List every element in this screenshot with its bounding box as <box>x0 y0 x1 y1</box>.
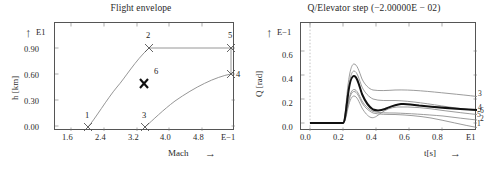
left-point-label-1: 1 <box>85 110 89 120</box>
left-xtick-1: 2.4 <box>95 132 106 142</box>
left-x-exponent: E−1 <box>221 132 235 142</box>
x-axis-arrow-icon: → <box>205 147 216 159</box>
left-chart-title: Flight envelope <box>46 3 236 13</box>
right-xtick-0: 0.0 <box>300 132 311 142</box>
left-ytick-3: 0.90 <box>24 44 39 54</box>
left-ytick-0: 0.00 <box>24 122 39 132</box>
left-envelope-path <box>88 48 231 127</box>
left-xtick-3: 4.0 <box>160 132 171 142</box>
right-y-axis-arrow-icon: ↑ <box>266 26 273 39</box>
left-xtick-2: 3.2 <box>128 132 139 142</box>
left-ytick-1: 0.30 <box>24 96 39 106</box>
right-xtick-1: 0.2 <box>333 132 344 142</box>
right-series-label-3: 3 <box>478 89 482 98</box>
right-series-6-line <box>310 76 477 123</box>
left-ytick-2: 0.60 <box>24 70 39 80</box>
right-xtick-3: 0.6 <box>399 132 410 142</box>
right-series-5-line <box>310 96 477 123</box>
right-series-label-1: 1 <box>477 119 481 128</box>
left-point-label-6: 6 <box>154 66 158 76</box>
right-ytick-0: 0.0 <box>282 122 293 132</box>
panel-q-elevator-step: Q/Elevator step (−2.00000E − 02) ↑ E−1 Q… <box>244 0 488 170</box>
right-x-exponent: E1 <box>466 132 475 142</box>
left-point-label-5: 5 <box>228 30 232 40</box>
right-ytick-1: 0.2 <box>282 98 293 108</box>
right-plot-svg <box>301 23 477 131</box>
left-point-6-marker <box>140 79 148 88</box>
right-xtick-4: 0.8 <box>432 132 443 142</box>
left-xtick-0: 1.6 <box>62 132 73 142</box>
right-x-axis-label: t[s] <box>424 148 436 158</box>
right-y-exponent: E−1 <box>277 27 291 37</box>
left-point-markers <box>84 44 235 131</box>
left-x-axis-label: Mach <box>168 148 189 158</box>
right-x-axis-arrow-icon: → <box>450 147 461 159</box>
right-plot-area <box>300 22 476 130</box>
two-panel-figure: Flight envelope ↑ E1 h [km] 0.00 0.30 0.… <box>0 0 488 170</box>
right-chart-title: Q/Elevator step (−2.00000E − 02) <box>264 3 484 13</box>
right-series-4-line <box>310 71 477 123</box>
left-point-label-3: 3 <box>142 110 146 120</box>
right-y-axis-label: Q [rad] <box>254 71 264 97</box>
left-point-label-2: 2 <box>146 30 150 40</box>
panel-flight-envelope: Flight envelope ↑ E1 h [km] 0.00 0.30 0.… <box>0 0 244 170</box>
left-y-exponent: E1 <box>36 27 45 37</box>
right-ytick-3: 0.6 <box>282 50 293 60</box>
left-point-label-4: 4 <box>236 69 240 79</box>
right-xtick-2: 0.4 <box>366 132 377 142</box>
right-ytick-2: 0.4 <box>282 74 293 84</box>
left-y-axis-label: h [km] <box>10 76 20 100</box>
right-series-thin <box>310 64 477 128</box>
y-axis-arrow-icon: ↑ <box>25 26 32 39</box>
left-xtick-4: 4.8 <box>193 132 204 142</box>
